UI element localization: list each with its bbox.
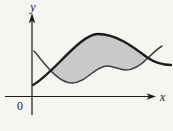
y-axis-label: y: [29, 0, 36, 14]
figure-region-between-curves: y x 0: [0, 0, 173, 131]
origin-label: 0: [17, 99, 23, 113]
x-axis-label: x: [159, 90, 166, 104]
